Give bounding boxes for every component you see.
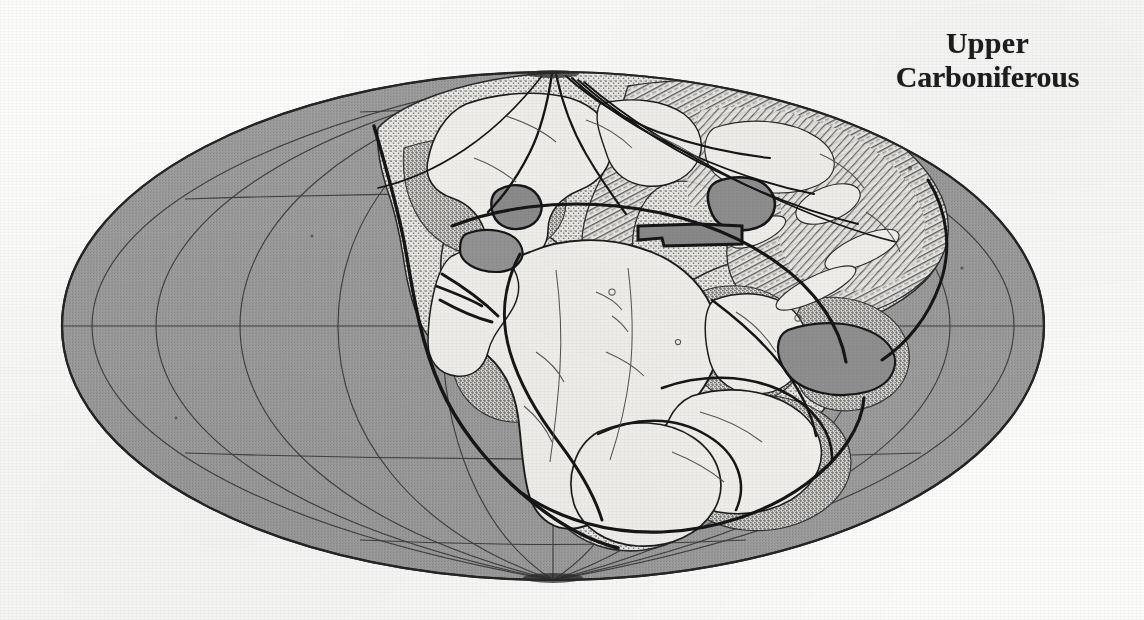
map-title-line-1: Upper xyxy=(855,26,1120,60)
map-title-line-2: Carboniferous xyxy=(855,60,1120,94)
figure-canvas: Upper Carboniferous xyxy=(0,0,1144,620)
basin-tethys-lobe xyxy=(708,177,775,230)
map-title: Upper Carboniferous xyxy=(855,26,1120,93)
